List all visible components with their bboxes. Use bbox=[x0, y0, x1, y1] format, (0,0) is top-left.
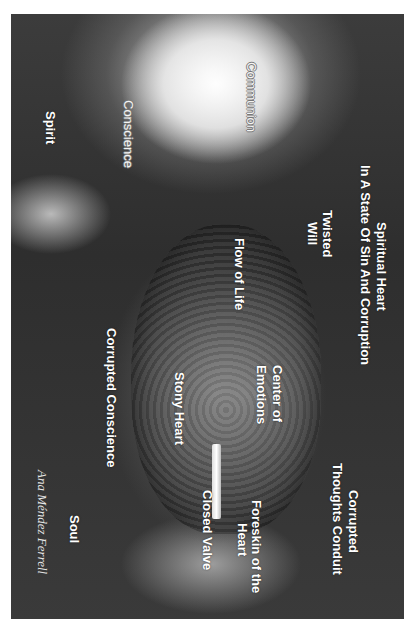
title-line-2: In A State Of Sin And Corruption bbox=[358, 165, 373, 365]
label-stony-heart: Stony Heart bbox=[172, 372, 187, 445]
label-center-of-emotions-1: Center of bbox=[270, 365, 285, 422]
label-flow-of-life: Flow of Life bbox=[232, 238, 247, 310]
label-communion: Communion bbox=[244, 62, 259, 132]
title-line-1: Spiritual Heart bbox=[374, 222, 389, 311]
label-spirit: Spirit bbox=[43, 111, 58, 144]
artist-signature: Ana Méndez Ferrell bbox=[34, 470, 50, 574]
label-foreskin-2: Heart bbox=[235, 523, 250, 556]
label-corrupted-thoughts-2: Thoughts Conduit bbox=[330, 463, 345, 575]
label-foreskin-1: Foreskin of the bbox=[249, 500, 264, 593]
label-closed-valve: Closed Valve bbox=[200, 490, 215, 570]
label-corrupted-thoughts-1: Corrupted bbox=[346, 490, 361, 553]
label-soul: Soul bbox=[67, 515, 82, 543]
label-corrupted-conscience: Corrupted Conscience bbox=[104, 328, 119, 467]
label-center-of-emotions-2: Emotions bbox=[254, 365, 269, 424]
heart-illustration bbox=[131, 224, 321, 534]
label-conscience: Conscience bbox=[121, 100, 136, 168]
label-twisted-will-1: Twisted bbox=[320, 210, 335, 257]
label-twisted-will-2: Will bbox=[305, 222, 320, 245]
